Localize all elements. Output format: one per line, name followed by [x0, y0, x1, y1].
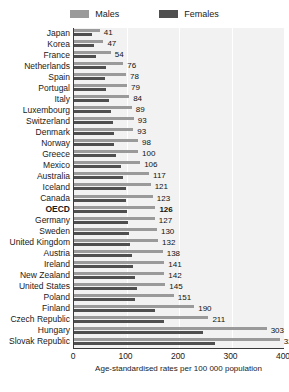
- bar-rows: 4147547678798489939398100106117121123126…: [74, 28, 284, 348]
- bar-row: 130: [74, 227, 284, 238]
- bar-value-label: 303: [271, 326, 284, 335]
- bar-females: [74, 221, 128, 224]
- bar-females: [74, 232, 129, 235]
- category-label: Finland: [0, 304, 70, 313]
- chart-legend: MalesFemales: [0, 6, 289, 22]
- bar-males: [74, 62, 123, 65]
- bar-females: [74, 154, 116, 157]
- bar-value-label: 79: [131, 83, 140, 92]
- bar-value-label: 141: [168, 260, 181, 269]
- bar-males: [74, 272, 164, 275]
- bar-females: [74, 132, 114, 135]
- bar-males: [74, 228, 157, 231]
- bar-row: 79: [74, 83, 284, 94]
- category-label: OECD: [0, 205, 70, 214]
- bar-females: [74, 121, 113, 124]
- bar-males: [74, 40, 103, 43]
- bar-row: 93: [74, 116, 284, 127]
- category-label: Japan: [0, 29, 70, 38]
- bar-females: [74, 243, 130, 246]
- bar-males: [74, 261, 164, 264]
- category-label: Luxembourg: [0, 106, 70, 115]
- bar-row: 100: [74, 149, 284, 160]
- bar-row: 78: [74, 72, 284, 83]
- bar-value-label: 54: [115, 50, 124, 59]
- category-labels: JapanKoreaFranceNetherlandsSpainPortugal…: [0, 28, 70, 348]
- bar-value-label: 130: [161, 227, 174, 236]
- bar-males: [74, 294, 174, 297]
- bar-males: [74, 161, 140, 164]
- category-label: Ireland: [0, 260, 70, 269]
- bar-males: [74, 51, 111, 54]
- bar-value-label: 138: [167, 249, 180, 258]
- bar-females: [74, 210, 127, 213]
- bar-row: 126: [74, 205, 284, 216]
- bar-males: [74, 327, 267, 330]
- plot-area: 4147547678798489939398100106117121123126…: [73, 28, 284, 348]
- bar-males: [74, 250, 163, 253]
- bar-females: [74, 33, 92, 36]
- bar-females: [74, 165, 121, 168]
- bar-value-label: 126: [159, 205, 172, 214]
- bar-males: [74, 150, 138, 153]
- bar-males: [74, 106, 132, 109]
- bar-males: [74, 338, 280, 341]
- legend-swatch-males: [70, 10, 89, 18]
- bar-males: [74, 217, 155, 220]
- x-tick-label: 400: [276, 351, 289, 361]
- bar-males: [74, 29, 100, 32]
- bar-females: [74, 287, 137, 290]
- bar-females: [74, 254, 132, 257]
- bar-females: [74, 298, 135, 301]
- bar-value-label: 123: [157, 194, 170, 203]
- bar-males: [74, 283, 165, 286]
- bar-row: 41: [74, 28, 284, 39]
- bar-row: 190: [74, 304, 284, 315]
- category-label: Portugal: [0, 84, 70, 93]
- bar-value-label: 151: [178, 293, 191, 302]
- bar-row: 98: [74, 138, 284, 149]
- bar-value-label: 117: [153, 171, 166, 180]
- bar-row: 54: [74, 50, 284, 61]
- bar-row: 123: [74, 194, 284, 205]
- category-label: Czech Republic: [0, 315, 70, 324]
- legend-item: Males: [70, 10, 119, 19]
- legend-label: Females: [184, 10, 219, 19]
- category-label: Switzerland: [0, 117, 70, 126]
- bar-females: [74, 110, 111, 113]
- bar-females: [74, 66, 106, 69]
- bar-row: 76: [74, 61, 284, 72]
- bar-value-label: 106: [144, 160, 157, 169]
- bar-males: [74, 139, 138, 142]
- bar-row: 93: [74, 127, 284, 138]
- x-tick-label: 200: [171, 351, 185, 361]
- bar-row: 117: [74, 171, 284, 182]
- category-label: Greece: [0, 150, 70, 159]
- x-tick-label: 300: [223, 351, 237, 361]
- category-label: Iceland: [0, 183, 70, 192]
- bar-value-label: 121: [155, 182, 168, 191]
- bar-females: [74, 276, 135, 279]
- legend-item: Females: [159, 10, 219, 19]
- bar-value-label: 89: [136, 105, 145, 114]
- bar-value-label: 145: [169, 282, 182, 291]
- bar-row: 106: [74, 160, 284, 171]
- category-label: Australia: [0, 172, 70, 181]
- bar-males: [74, 206, 155, 209]
- category-label: Slovak Republic: [0, 337, 70, 346]
- bar-males: [74, 95, 129, 98]
- category-label: Canada: [0, 194, 70, 203]
- bar-males: [74, 172, 149, 175]
- bar-value-label: 324: [284, 337, 289, 346]
- bar-value-label: 47: [107, 39, 116, 48]
- bar-row: 324: [74, 337, 284, 348]
- bar-females: [74, 77, 105, 80]
- bar-males: [74, 128, 133, 131]
- bar-females: [74, 88, 106, 91]
- bar-males: [74, 195, 153, 198]
- bar-males: [74, 183, 151, 186]
- bar-females: [74, 309, 155, 312]
- bar-value-label: 132: [162, 238, 175, 247]
- bar-males: [74, 316, 208, 319]
- bar-row: 47: [74, 39, 284, 50]
